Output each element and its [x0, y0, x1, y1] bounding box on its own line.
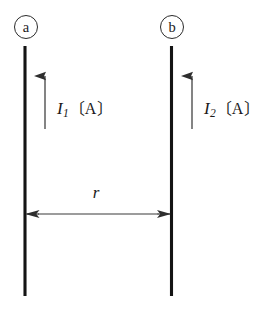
conductor-b-badge-letter: b: [168, 19, 175, 34]
current-label-2: I2〔A〕: [204, 95, 260, 119]
conductor-a-badge: a: [14, 15, 38, 39]
conductor-a-badge-letter: a: [23, 19, 29, 34]
physics-figure-parallel-wires: a b I1〔A〕 I2〔A〕 r: [0, 0, 268, 319]
conductor-b-badge: b: [160, 15, 184, 39]
separation-label: r: [86, 183, 106, 203]
figure-canvas: [0, 0, 268, 319]
current-unit-close-1: 〕: [97, 100, 113, 117]
current-unit-close-2: 〕: [244, 100, 260, 117]
current-unit-1: A: [85, 100, 97, 117]
current-unit-open-2: 〔: [216, 100, 232, 117]
current-unit-open-1: 〔: [69, 100, 85, 117]
current-label-1: I1〔A〕: [57, 95, 113, 119]
current-unit-2: A: [232, 100, 244, 117]
